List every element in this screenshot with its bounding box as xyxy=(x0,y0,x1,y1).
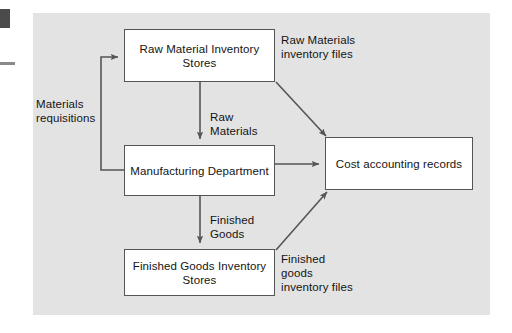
node-manufacturing-department[interactable]: Manufacturing Department xyxy=(124,145,275,196)
edge-label-materials-requisitions: Materials requisitions xyxy=(36,97,95,125)
margin-block-mark xyxy=(0,9,10,28)
diagram-canvas: Raw Material Inventory Stores Manufactur… xyxy=(0,0,512,333)
edge-label-raw-materials: Raw Materials xyxy=(210,110,258,138)
node-cost-accounting-records[interactable]: Cost accounting records xyxy=(325,137,473,190)
node-raw-material-inventory-stores[interactable]: Raw Material Inventory Stores xyxy=(124,29,275,82)
edge-label-finished-goods-inventory-files: Finished goods inventory files xyxy=(281,252,353,294)
node-finished-goods-inventory-stores[interactable]: Finished Goods Inventory Stores xyxy=(124,249,275,296)
margin-dash-mark xyxy=(0,62,15,65)
edge-label-finished-goods: Finished Goods xyxy=(210,213,254,241)
edge-label-raw-materials-inventory-files: Raw Materials inventory files xyxy=(281,33,355,61)
